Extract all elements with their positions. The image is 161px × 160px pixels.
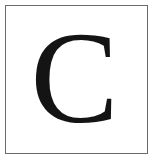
letter-glyph: C <box>6 6 147 153</box>
letter-tile-frame: C <box>5 5 148 154</box>
